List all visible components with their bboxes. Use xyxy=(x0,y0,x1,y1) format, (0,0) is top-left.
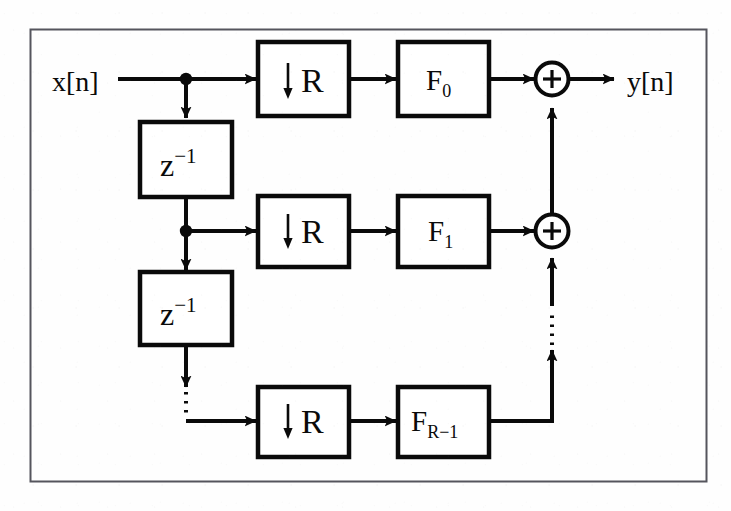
filter2-to-adder-chain-wire xyxy=(489,350,552,421)
delay-label-2-base: z xyxy=(160,296,174,332)
filter-label-2-sub: R−1 xyxy=(427,422,458,442)
downsampler-label-1: R xyxy=(301,213,324,250)
downsampler-label-2: R xyxy=(301,403,324,440)
filter-label-1-sub: 1 xyxy=(444,232,453,252)
delay-label-2-exponent: −1 xyxy=(174,293,196,317)
block-diagram: x[n] y[n] R R R F0 F1 FR−1 z−1 z−1 xyxy=(0,0,731,511)
input-signal-label: x[n] xyxy=(52,66,99,97)
delay-label-1-base: z xyxy=(160,147,174,183)
downsampler-label-0: R xyxy=(301,62,324,99)
filter-box-0 xyxy=(398,42,489,116)
output-signal-label: y[n] xyxy=(627,66,674,97)
delay-label-1-exponent: −1 xyxy=(174,144,196,168)
filter-label-0-base: F xyxy=(426,64,442,96)
filter-label-0-sub: 0 xyxy=(442,81,451,101)
filter-label-2-base: F xyxy=(411,405,427,437)
figure-outer-border xyxy=(31,30,707,482)
filter-label-1-base: F xyxy=(428,215,444,247)
figure-root: x[n] y[n] R R R F0 F1 FR−1 z−1 z−1 xyxy=(0,0,731,511)
